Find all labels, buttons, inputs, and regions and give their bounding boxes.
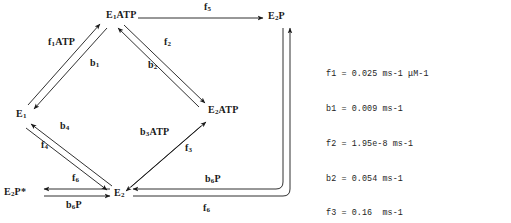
- parameter-row: f2 = 1.95e-8 ms-1: [326, 139, 511, 151]
- rate-label-f2: f2: [164, 36, 171, 48]
- node-e2p: E2P: [268, 10, 285, 22]
- parameter-list: f1 = 0.025 ms-1 μM-1 b1 = 0.009 ms-1 f2 …: [326, 46, 511, 223]
- arrow-b2-e2atp-to-e1atp: [118, 28, 199, 107]
- parameter-row: f1 = 0.025 ms-1 μM-1: [326, 69, 511, 81]
- node-e2atp: E2ATP: [208, 104, 238, 116]
- parameter-row: f3 = 0.16 ms-1: [326, 208, 511, 220]
- rate-label-f6-right: f6: [203, 202, 210, 214]
- rate-label-f4: f4: [41, 139, 48, 151]
- reaction-scheme-diagram: E1ATP E2P E1 E2ATP E2P* E2 f1ATP b1 f2 b…: [0, 0, 320, 223]
- diagram-arrows: [0, 0, 320, 223]
- arrow-f4-e1-to-e2: [26, 128, 107, 190]
- rate-label-b3atp: b3ATP: [140, 126, 169, 138]
- node-e1: E1: [16, 108, 27, 120]
- parameter-row: b2 = 0.054 ms-1: [326, 174, 511, 186]
- rate-label-f5: f5: [204, 1, 211, 13]
- rate-label-f6-left: f6: [72, 172, 79, 184]
- rate-label-f1atp: f1ATP: [48, 36, 75, 48]
- rate-label-b6p-right: b6P: [205, 173, 221, 185]
- rate-label-b2: b2: [148, 59, 157, 71]
- node-e2p-star: E2P*: [4, 186, 26, 198]
- parameter-row: b1 = 0.009 ms-1: [326, 104, 511, 116]
- node-e2: E2: [114, 187, 125, 199]
- rate-label-b6p-left: b6P: [66, 199, 82, 211]
- rate-label-b1: b1: [90, 57, 99, 69]
- rate-label-f3: f3: [185, 142, 192, 154]
- node-e1atp: E1ATP: [106, 9, 136, 21]
- rate-label-b4: b4: [60, 120, 69, 132]
